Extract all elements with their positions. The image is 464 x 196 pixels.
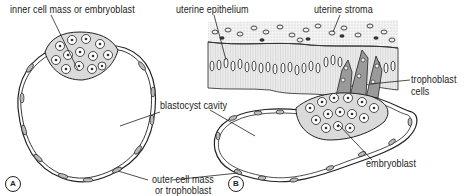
label-blastocyst-cavity: blastocyst cavity	[160, 100, 227, 111]
label-outer-cell-mass-line2: or trophoblast	[155, 185, 211, 196]
label-trophoblast-cells-line1: trophoblast	[411, 74, 457, 85]
label-inner-cell-mass: inner cell mass or embryoblast	[10, 4, 135, 15]
label-trophoblast-cells-line2: cells	[411, 86, 429, 97]
panel-a-marker: A	[5, 176, 21, 192]
label-uterine-epithelium: uterine epithelium	[176, 4, 249, 15]
panel-b-marker: B	[228, 176, 244, 192]
label-embryoblast: embryoblast	[366, 158, 416, 169]
label-uterine-stroma: uterine stroma	[314, 4, 373, 15]
blastocyst-diagram: inner cell mass or embryoblast blastocys…	[0, 0, 464, 196]
panel-a-blastocyst	[18, 15, 160, 182]
